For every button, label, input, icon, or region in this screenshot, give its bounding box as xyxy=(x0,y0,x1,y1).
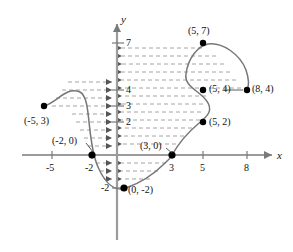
x-tick-label-neg5: -5 xyxy=(46,163,54,173)
point-label-5-7: (5, 7) xyxy=(188,26,210,36)
point-label-neg5-3: (-5, 3) xyxy=(24,116,49,126)
point-neg2-0 xyxy=(88,151,95,158)
y-tick-label-neg2: -2 xyxy=(101,183,109,193)
point-label-5-2: (5, 2) xyxy=(209,117,231,127)
x-tick-label-3: 3 xyxy=(169,163,174,173)
y-tick-label-3: 3 xyxy=(126,101,131,111)
point-5-2 xyxy=(200,119,206,125)
point-label-0-neg2: (0, -2) xyxy=(128,185,153,195)
point-0-neg2 xyxy=(120,184,127,191)
point-neg5-3 xyxy=(41,103,47,109)
point-5-7 xyxy=(200,40,206,46)
point-label-5-4: (5, 4) xyxy=(209,84,231,94)
y-tick-label-7: 7 xyxy=(126,38,131,48)
x-tick-label-8: 8 xyxy=(244,163,249,173)
x-axis xyxy=(22,151,272,159)
dashed-arrows-right xyxy=(122,48,241,179)
point-5-4 xyxy=(200,87,206,93)
graph-figure xyxy=(0,0,293,252)
point-label-8-4: (8, 4) xyxy=(252,84,274,94)
y-axis-label: y xyxy=(121,14,126,25)
point-8-4 xyxy=(244,87,250,93)
point-label-neg2-0: (-2, 0) xyxy=(52,136,77,146)
y-tick-label-4: 4 xyxy=(126,85,131,95)
point-label-3-0: (3, 0) xyxy=(140,141,162,151)
x-tick-label-5: 5 xyxy=(200,163,205,173)
y-tick-label-2: 2 xyxy=(126,117,131,127)
x-tick-label-neg2: -2 xyxy=(85,163,93,173)
x-axis-label: x xyxy=(277,150,282,161)
